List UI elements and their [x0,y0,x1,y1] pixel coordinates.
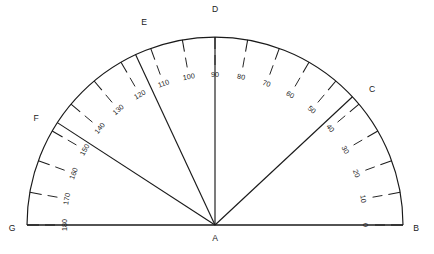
inner-degree-tick-60 [295,78,300,87]
protractor-figure: 0102030405060708090100110120130140150160… [0,0,434,254]
inner-degree-tick-160 [55,167,64,170]
inner-degree-tick-10 [373,195,383,197]
degree-label-60: 60 [285,89,296,101]
inner-degree-tick-70 [270,65,273,74]
degree-label-100: 100 [182,71,195,82]
inner-degree-tick-140 [85,116,93,122]
degree-tick-70 [275,48,279,59]
degree-tick-140 [71,104,80,112]
degree-tick-150 [52,131,62,137]
inner-degree-tick-80 [243,58,245,68]
degree-label-80: 80 [236,72,245,82]
degree-label-110: 110 [157,77,171,89]
inner-degree-tick-110 [157,65,160,74]
ray-a-c [215,97,352,225]
degree-label-130: 130 [111,102,126,117]
degree-tick-40 [350,104,359,112]
point-label-e: E [141,17,147,27]
degree-label-140: 140 [92,121,107,136]
degree-tick-10 [388,192,400,194]
inner-degree-tick-50 [318,95,324,103]
degree-label-10: 10 [358,194,368,203]
degree-label-0: 0 [361,223,370,227]
inner-degree-tick-130 [106,95,112,103]
degree-tick-50 [328,81,336,90]
degree-tick-160 [38,161,49,165]
degree-label-20: 20 [351,168,362,179]
point-label-b: B [413,223,419,233]
inner-degree-tick-20 [365,167,374,170]
degree-tick-80 [246,40,248,52]
degree-tick-20 [380,161,391,165]
inner-degree-tick-150 [68,140,77,145]
rays [27,37,403,225]
degree-label-70: 70 [261,78,272,89]
degree-label-90: 90 [211,70,219,79]
degree-label-150: 150 [78,142,92,157]
degree-tick-120 [121,62,127,72]
inner-degree-tick-120 [130,78,135,87]
degree-label-120: 120 [132,88,147,102]
inner-degree-tick-100 [185,58,187,68]
point-label-g: G [9,223,16,233]
point-labels: BCDEFGA [9,4,419,243]
degree-label-40: 40 [324,122,336,134]
degree-label-170: 170 [61,192,72,205]
degree-label-160: 160 [67,166,80,180]
protractor-canvas: 0102030405060708090100110120130140150160… [0,0,434,254]
inner-degree-tick-40 [338,116,346,122]
degree-tick-130 [94,81,102,90]
point-label-c: C [369,84,375,94]
degree-tick-110 [151,48,155,59]
degree-label-180: 180 [60,219,69,231]
point-label-d: D [212,4,218,14]
inner-degree-tick-30 [354,140,363,145]
degree-tick-60 [303,62,309,72]
inner-degree-tick-170 [48,195,58,197]
point-label-a: A [212,233,218,243]
degree-tick-170 [30,192,42,194]
degree-tick-100 [182,40,184,52]
degree-label-50: 50 [306,104,318,116]
degree-label-30: 30 [340,144,352,155]
point-label-f: F [33,113,38,123]
degree-tick-30 [367,131,377,137]
